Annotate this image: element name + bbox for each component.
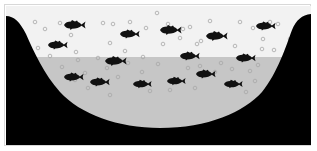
lake-illustration: [0, 0, 317, 151]
